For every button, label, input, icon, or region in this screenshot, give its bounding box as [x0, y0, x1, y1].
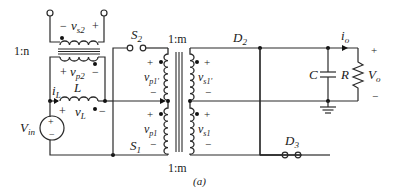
vp2-plus: +	[60, 65, 67, 79]
C-label: C	[309, 67, 318, 82]
svg-text:−: −	[205, 138, 211, 150]
D2-label: D2	[232, 30, 247, 47]
D3-label: D3	[284, 133, 299, 150]
vo-minus: −	[372, 90, 378, 102]
svg-text:−: −	[205, 86, 211, 98]
S2-terminal	[127, 45, 133, 51]
inductor-L: iL L + vL −	[48, 80, 113, 121]
svg-text:−: −	[150, 86, 156, 98]
vp2-minus: −	[92, 65, 99, 79]
svg-text:−: −	[150, 138, 156, 150]
switch-branch: S2 S1	[113, 27, 168, 155]
vo-label: Vo	[368, 67, 381, 84]
S1-label: S1	[130, 138, 141, 155]
svg-text:+: +	[147, 56, 153, 68]
svg-text:+: +	[204, 56, 210, 68]
svg-text:+: +	[48, 116, 54, 127]
io-label: io	[341, 28, 350, 45]
svg-text:+: +	[204, 108, 210, 120]
output-stage: D2 D3 C io R + Vo −	[190, 28, 381, 158]
vp1prime-label: vp1'	[144, 70, 159, 86]
vL-minus: −	[99, 104, 106, 118]
vL-plus: +	[59, 104, 66, 118]
aux-primary-winding	[60, 57, 98, 61]
main-transformer: 1:m 1:m + vp1' − + vp1 − + vs1' − + vs1 …	[144, 32, 212, 175]
R-label: R	[340, 67, 349, 82]
S2-label: S2	[131, 27, 143, 44]
vs2-plus: +	[92, 19, 99, 33]
vL-label: vL	[75, 104, 86, 121]
iL-label: iL	[52, 83, 61, 100]
figure-caption: (a)	[193, 175, 206, 187]
inductor-winding	[60, 97, 98, 101]
aux-ratio-label: 1:n	[14, 44, 29, 58]
aux-secondary-winding	[60, 41, 98, 45]
svg-text:−: −	[49, 129, 55, 140]
vs1-label: vs1	[198, 122, 210, 138]
vs2-label: vs2	[71, 18, 85, 35]
vp1-label: vp1	[144, 122, 157, 138]
L-label: L	[73, 80, 81, 95]
vin-label: Vin	[20, 120, 35, 137]
polarity-dot	[93, 107, 97, 111]
ratio-top: 1:m	[168, 32, 187, 46]
aux-transformer: − vs2 + + vp2 − 1:n	[14, 10, 107, 101]
aux-terminal-right	[101, 10, 107, 16]
polarity-dot	[60, 36, 64, 40]
vo-plus: +	[371, 44, 377, 56]
vp2-label: vp2	[70, 64, 85, 81]
circuit-diagram: − vs2 + + vp2 − 1:n iL L + vL − + − Vin	[0, 0, 400, 187]
aux-terminal-left	[47, 10, 53, 16]
vs1prime-label: vs1'	[198, 70, 212, 86]
svg-text:+: +	[147, 108, 153, 120]
ratio-bottom: 1:m	[168, 161, 187, 175]
vs2-minus: −	[60, 19, 67, 33]
S2-terminal	[140, 45, 146, 51]
